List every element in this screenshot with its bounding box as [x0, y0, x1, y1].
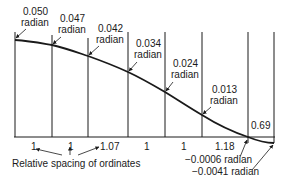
svg-text:0.024: 0.024	[173, 58, 198, 69]
svg-text:radian: radian	[210, 95, 238, 106]
svg-text:0.047: 0.047	[60, 13, 85, 24]
spacing-7: 0.69	[251, 120, 271, 131]
svg-text:radian: radian	[58, 24, 86, 35]
svg-text:radian: radian	[134, 49, 162, 60]
slope-label-1: 0.050 radian	[16, 6, 49, 38]
slope-diagram: 0.050 radian 0.047 radian 0.042 radian 0…	[0, 0, 285, 184]
svg-text:−0.0006 radian: −0.0006 radian	[185, 154, 252, 165]
svg-text:radian: radian	[171, 69, 199, 80]
svg-text:0.034: 0.034	[136, 38, 161, 49]
svg-text:0.013: 0.013	[212, 84, 237, 95]
slope-label-4: 0.034 radian	[129, 38, 162, 71]
spacing-5: 1	[181, 141, 187, 152]
svg-text:radian: radian	[96, 34, 124, 45]
svg-text:radian: radian	[21, 17, 49, 28]
slope-label-2: 0.047 radian	[53, 13, 86, 44]
slope-label-5: 0.024 radian	[166, 58, 199, 91]
slope-label-3: 0.042 radian	[89, 23, 124, 55]
spacing-6: 1.18	[215, 141, 235, 152]
spacing-3: 1.07	[100, 141, 120, 152]
svg-text:−0.0041 radian: −0.0041 radian	[192, 166, 259, 177]
spacing-4: 1	[144, 141, 150, 152]
svg-text:0.050: 0.050	[23, 6, 48, 17]
spacing-1: 1	[31, 141, 37, 152]
spacing-caption: Relative spacing of ordinates	[12, 158, 140, 169]
svg-text:0.042: 0.042	[98, 23, 123, 34]
spacing-2: 1	[68, 141, 74, 152]
slope-label-6: 0.013 radian	[203, 84, 238, 114]
